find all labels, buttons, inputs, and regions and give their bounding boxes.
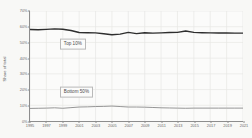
x-tick-mark bbox=[30, 121, 31, 123]
y-axis-title: Share of total bbox=[2, 56, 7, 81]
x-tick-label: 2011 bbox=[158, 124, 166, 128]
x-tick-mark bbox=[46, 121, 47, 123]
y-tick-mark bbox=[28, 90, 30, 91]
x-tick-mark bbox=[128, 121, 129, 123]
y-tick-label: 30% bbox=[20, 72, 28, 76]
x-tick-label: 2001 bbox=[75, 124, 83, 128]
x-tick-label: 2003 bbox=[92, 124, 100, 128]
x-tick-label: 1999 bbox=[59, 124, 67, 128]
y-tick-mark bbox=[28, 74, 30, 75]
x-tick-mark bbox=[227, 121, 228, 123]
series-callout: Bottom 50% bbox=[60, 86, 94, 97]
y-tick-label: 20% bbox=[20, 88, 28, 92]
x-tick-label: 2017 bbox=[207, 124, 215, 128]
x-tick-mark bbox=[211, 121, 212, 123]
x-tick-label: 1995 bbox=[26, 124, 34, 128]
y-tick-mark bbox=[28, 106, 30, 107]
x-tick-label: 1997 bbox=[42, 124, 50, 128]
x-tick-label: 2007 bbox=[125, 124, 133, 128]
x-tick-mark bbox=[79, 121, 80, 123]
plot-area: 70%60%50%40%30%20%10%0%19951997199920012… bbox=[29, 11, 243, 122]
x-tick-label: 2021 bbox=[240, 124, 248, 128]
line-chart: Share of total 70%60%50%40%30%20%10%0%19… bbox=[0, 0, 252, 138]
y-tick-label: 10% bbox=[20, 104, 28, 108]
x-tick-mark bbox=[161, 121, 162, 123]
x-tick-label: 2013 bbox=[174, 124, 182, 128]
x-tick-label: 2019 bbox=[223, 124, 231, 128]
x-tick-mark bbox=[244, 121, 245, 123]
y-tick-label: 60% bbox=[20, 25, 28, 29]
x-tick-label: 2015 bbox=[190, 124, 198, 128]
y-tick-mark bbox=[28, 58, 30, 59]
y-tick-mark bbox=[28, 42, 30, 43]
y-tick-mark bbox=[28, 26, 30, 27]
x-tick-label: 2009 bbox=[141, 124, 149, 128]
x-tick-mark bbox=[112, 121, 113, 123]
y-tick-label: 50% bbox=[20, 41, 28, 45]
series-callout: Top 10% bbox=[60, 39, 86, 50]
x-tick-label: 2005 bbox=[108, 124, 116, 128]
x-tick-mark bbox=[145, 121, 146, 123]
y-tick-label: 70% bbox=[20, 9, 28, 13]
y-tick-label: 40% bbox=[20, 57, 28, 61]
axis-labels: 70%60%50%40%30%20%10%0%19951997199920012… bbox=[30, 11, 243, 121]
x-tick-mark bbox=[178, 121, 179, 123]
x-tick-mark bbox=[194, 121, 195, 123]
y-tick-mark bbox=[28, 11, 30, 12]
x-tick-mark bbox=[62, 121, 63, 123]
x-tick-mark bbox=[95, 121, 96, 123]
